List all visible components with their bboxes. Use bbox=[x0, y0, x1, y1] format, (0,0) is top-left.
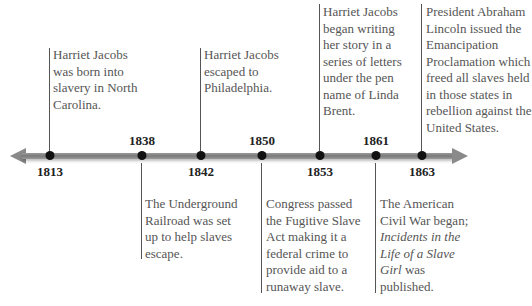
event-text-1842: Harriet Jacobs escaped to Philadelphia. bbox=[204, 47, 300, 97]
timeline-axis bbox=[22, 153, 454, 159]
connector-1853 bbox=[319, 4, 320, 151]
timeline-dot-1838 bbox=[138, 151, 147, 160]
year-label-1842: 1842 bbox=[188, 164, 214, 180]
event-text-1838: The Underground Railroad was set up to h… bbox=[145, 196, 241, 262]
event-text-1861-pre: The American Civil War began; bbox=[380, 196, 468, 228]
year-label-1838: 1838 bbox=[129, 133, 155, 149]
year-label-1813: 1813 bbox=[37, 164, 63, 180]
event-text-1863: President Abraham Lincoln issued the Ema… bbox=[426, 4, 532, 136]
connector-1838 bbox=[141, 163, 142, 259]
year-label-1853: 1853 bbox=[307, 164, 333, 180]
connector-1863 bbox=[421, 4, 422, 151]
event-text-1813: Harriet Jacobs was born into slavery in … bbox=[53, 47, 145, 113]
event-text-1853: Harriet Jacobs began writing her story i… bbox=[323, 4, 413, 120]
connector-1850 bbox=[261, 163, 262, 293]
connector-1813 bbox=[49, 48, 50, 151]
timeline-dot-1842 bbox=[197, 151, 206, 160]
timeline-dot-1853 bbox=[316, 151, 325, 160]
event-text-1861: The American Civil War began; Incidents … bbox=[380, 196, 472, 295]
timeline-dot-1861 bbox=[372, 151, 381, 160]
timeline-dot-1863 bbox=[418, 151, 427, 160]
year-label-1861: 1861 bbox=[363, 133, 389, 149]
timeline-arrow-right-icon bbox=[452, 148, 468, 164]
year-label-1850: 1850 bbox=[249, 133, 275, 149]
timeline-dot-1850 bbox=[258, 151, 267, 160]
year-label-1863: 1863 bbox=[409, 164, 435, 180]
event-text-1850: Congress passed the Fugitive Slave Act m… bbox=[266, 196, 366, 295]
connector-1861 bbox=[375, 163, 376, 293]
timeline-dot-1813 bbox=[46, 151, 55, 160]
connector-1842 bbox=[200, 48, 201, 151]
